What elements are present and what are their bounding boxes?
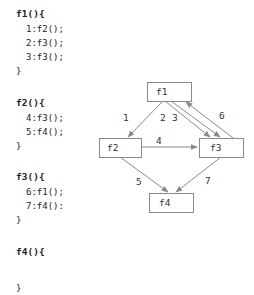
- node-f3: [200, 139, 244, 158]
- edge-6: [186, 102, 233, 138]
- edge-label-5: 5: [136, 176, 142, 187]
- edge-7: [176, 157, 221, 192]
- node-label-f1: f1: [156, 86, 168, 97]
- node-label-f4: f4: [159, 197, 171, 208]
- edge-label-2: 2: [160, 112, 166, 123]
- node-f1: [148, 83, 192, 102]
- edge-label-4: 4: [156, 135, 162, 146]
- edge-label-6: 6: [219, 110, 225, 121]
- edge-label-7: 7: [205, 175, 211, 186]
- node-f2: [100, 139, 142, 158]
- edge-5: [120, 157, 168, 192]
- call-graph-diagram: f1 f2 f3 f4 1 2 3 4 5 6 7: [0, 0, 254, 295]
- edge-3: [171, 101, 220, 137]
- node-label-f2: f2: [107, 142, 118, 153]
- edge-label-1: 1: [123, 112, 129, 123]
- edge-label-3: 3: [172, 112, 178, 123]
- node-label-f3: f3: [210, 142, 221, 153]
- edge-1: [128, 101, 163, 137]
- node-f4: [150, 194, 194, 213]
